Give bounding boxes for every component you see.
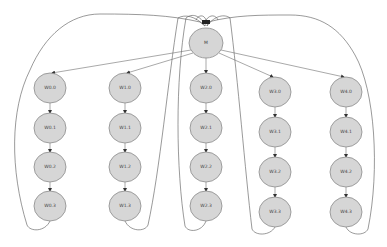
node-label: W2.0 [200,85,212,90]
node-label: W0.1 [44,125,56,130]
node-label: W4.2 [340,169,352,174]
node-label: W1.2 [119,164,131,169]
worker-node[interactable]: W0.2 [34,152,66,182]
node-label: W1.1 [119,125,131,130]
graph-diagram: M W0.0 W0.1 W0.2 W0.3 W1.0 W1.1 W1.2 W1.… [0,0,387,247]
edge-m-to-col3 [219,53,273,77]
worker-node[interactable]: W3.3 [259,197,291,227]
worker-node[interactable]: W1.2 [109,152,141,182]
edge-m-to-col0 [52,50,191,73]
node-label: W3.0 [269,89,281,94]
node-label: W1.0 [119,85,131,90]
node-label: W0.2 [44,164,56,169]
node-label: W4.0 [340,89,352,94]
node-label: W2.1 [200,125,212,130]
worker-node[interactable]: W4.3 [330,197,362,227]
worker-node[interactable]: W2.3 [190,191,222,221]
node-label: W1.3 [119,203,131,208]
worker-node[interactable]: W1.3 [109,191,141,221]
node-label: W0.0 [44,85,56,90]
edge-m-to-col1 [127,53,193,73]
node-label: W0.3 [44,203,56,208]
node-label: W3.2 [269,169,281,174]
worker-node[interactable]: W4.0 [330,77,362,107]
worker-node[interactable]: W0.3 [34,191,66,221]
worker-node[interactable]: W3.1 [259,117,291,147]
node-label: W3.1 [269,129,281,134]
worker-node[interactable]: W4.2 [330,157,362,187]
edge-m-to-col4 [221,50,344,77]
worker-node[interactable]: W1.0 [109,73,141,103]
worker-node[interactable]: W1.1 [109,113,141,143]
worker-node[interactable]: W0.1 [34,113,66,143]
node-label: W4.3 [340,209,352,214]
worker-node[interactable]: W3.2 [259,157,291,187]
worker-node[interactable]: W4.1 [330,117,362,147]
worker-node[interactable]: W0.0 [34,73,66,103]
node-label: W2.3 [200,203,212,208]
master-port-icon [202,20,210,24]
node-label: W3.3 [269,209,281,214]
node-label: W2.2 [200,164,212,169]
worker-node[interactable]: W2.2 [190,152,222,182]
node-label: W4.1 [340,129,352,134]
worker-node[interactable]: W3.0 [259,77,291,107]
worker-node[interactable]: W2.1 [190,113,222,143]
worker-node[interactable]: W2.0 [190,73,222,103]
master-label: M [204,40,208,45]
